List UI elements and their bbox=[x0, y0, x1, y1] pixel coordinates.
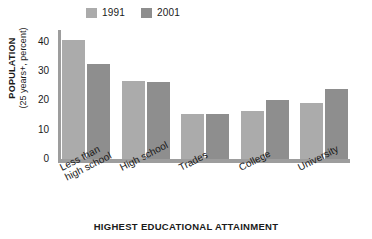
legend-label-1991: 1991 bbox=[102, 8, 125, 18]
y-axis-tick-label: 0 bbox=[43, 154, 49, 164]
bar-2001[interactable] bbox=[206, 114, 229, 159]
x-axis-category-labels: Less than high schoolHigh schoolTradesCo… bbox=[62, 163, 348, 213]
y-axis-tick-label: 40 bbox=[38, 37, 49, 47]
y-axis-ticks: 403020100 bbox=[0, 30, 56, 159]
legend-swatch-1991-icon bbox=[86, 8, 97, 18]
plot-area bbox=[62, 30, 348, 159]
x-axis-title: HIGHEST EDUCATIONAL ATTAINMENT bbox=[0, 221, 372, 232]
y-axis-tick-label: 10 bbox=[38, 125, 49, 135]
legend-swatch-2001-icon bbox=[141, 8, 152, 18]
y-axis-tick-label: 20 bbox=[38, 95, 49, 105]
bar-1991[interactable] bbox=[122, 81, 145, 159]
bar-1991[interactable] bbox=[62, 40, 85, 159]
legend-entry-2001: 2001 bbox=[141, 8, 180, 18]
y-axis-line bbox=[58, 30, 61, 163]
legend-label-2001: 2001 bbox=[157, 8, 180, 18]
y-axis-tick-label: 30 bbox=[38, 66, 49, 76]
bar-groups bbox=[62, 30, 348, 159]
bar-group bbox=[300, 30, 348, 159]
bar-group bbox=[241, 30, 289, 159]
legend-entry-1991: 1991 bbox=[86, 8, 125, 18]
bar-chart: 1991 2001 POPULATION (25 years+, percent… bbox=[0, 0, 372, 239]
bar-group bbox=[181, 30, 229, 159]
chart-legend: 1991 2001 bbox=[86, 8, 180, 18]
